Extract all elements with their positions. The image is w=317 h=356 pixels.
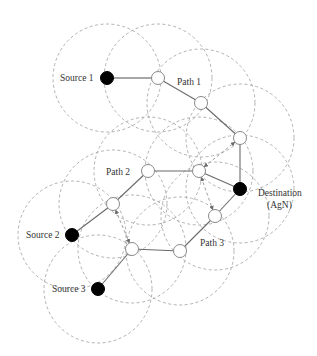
label-source-1: Source 1 (60, 73, 94, 83)
path-1-link (201, 103, 240, 138)
relay-node-p2d (193, 165, 206, 178)
path-3-link (98, 249, 132, 289)
diagram-svg: Source 1 Path 1 Path 2 Destination (AgN)… (0, 0, 317, 356)
relay-node-p3h (174, 245, 187, 258)
label-source-3: Source 3 (52, 284, 86, 294)
destination-node-destination (234, 183, 247, 196)
overhearing-arrow (201, 177, 213, 210)
overhearing-arrow (116, 210, 130, 243)
relay-node-p3g (126, 243, 139, 256)
network-nodes (66, 72, 247, 296)
label-path-1: Path 1 (177, 77, 201, 87)
routing-diagram: Source 1 Path 1 Path 2 Destination (AgN)… (0, 0, 317, 356)
overhearing-arrow (204, 142, 235, 167)
relay-node-p1b (195, 97, 208, 110)
path-2-link (72, 204, 113, 235)
source-node-source3 (92, 283, 105, 296)
diagram-labels: Source 1 Path 1 Path 2 Destination (AgN)… (26, 73, 302, 294)
overhearing-links (116, 142, 235, 243)
relay-node-p2f (107, 198, 120, 211)
source-node-source1 (101, 72, 114, 85)
label-path-2: Path 2 (106, 167, 130, 177)
label-path-3: Path 3 (200, 238, 224, 248)
label-destination: Destination (258, 188, 302, 198)
relay-node-p3i (209, 210, 222, 223)
path-links (72, 78, 240, 289)
relay-node-p1a (152, 72, 165, 85)
source-node-source2 (66, 229, 79, 242)
label-source-2: Source 2 (26, 230, 60, 240)
relay-node-p1c (234, 132, 247, 145)
relay-node-p2e (142, 165, 155, 178)
label-destination-agn: (AgN) (267, 200, 292, 211)
